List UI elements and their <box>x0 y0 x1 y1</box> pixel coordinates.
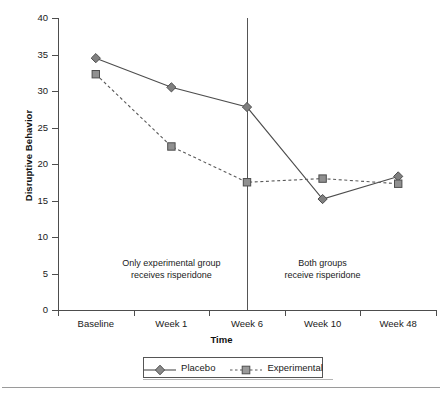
chart-figure: Disruptive Behavior 0510152025303540 Bas… <box>0 0 443 398</box>
legend-label-experimental: Experimental <box>267 362 322 373</box>
y-tick-label: 20 <box>37 158 52 169</box>
y-tick: 35 <box>52 55 58 56</box>
x-axis-line <box>58 310 436 311</box>
y-tick: 15 <box>52 201 58 202</box>
y-tick: 30 <box>52 91 58 92</box>
data-point-placebo-0 <box>91 54 100 63</box>
y-tick: 10 <box>52 237 58 238</box>
x-tick-label: Week 6 <box>231 318 263 329</box>
legend-entry-placebo: Placebo <box>143 362 215 374</box>
y-tick: 5 <box>52 274 58 275</box>
footer-divider-short <box>143 379 333 380</box>
y-tick-label: 5 <box>43 268 52 279</box>
x-tick <box>209 310 210 316</box>
x-axis-title: Time <box>0 334 443 345</box>
x-tick-label: Week 48 <box>380 318 417 329</box>
y-axis-line <box>58 18 59 310</box>
y-tick: 40 <box>52 18 58 19</box>
y-tick-label: 0 <box>43 304 52 315</box>
x-tick <box>360 310 361 316</box>
data-point-placebo-3 <box>318 194 327 203</box>
data-point-placebo-1 <box>167 83 176 92</box>
phase-divider-line <box>247 18 248 310</box>
y-axis-title: Disruptive Behavior <box>23 76 34 236</box>
y-tick-label: 35 <box>37 49 52 60</box>
placebo-diamond-icon <box>143 362 177 374</box>
right-phase-note: Both groups receive risperidone <box>285 257 361 281</box>
y-tick-label: 15 <box>37 195 52 206</box>
x-tick-label: Week 10 <box>304 318 341 329</box>
data-point-experimental-3 <box>319 175 326 182</box>
x-tick <box>58 310 59 316</box>
data-point-experimental-0 <box>92 71 99 78</box>
y-tick: 25 <box>52 128 58 129</box>
data-point-placebo-4 <box>394 172 403 181</box>
left-phase-note: Only experimental group receives risperi… <box>122 257 220 281</box>
experimental-square-icon <box>229 362 263 374</box>
y-tick-label: 40 <box>37 12 52 23</box>
y-tick-label: 25 <box>37 122 52 133</box>
x-tick <box>134 310 135 316</box>
x-tick <box>436 310 437 316</box>
y-tick-label: 10 <box>37 231 52 242</box>
chart-legend: Placebo Experimental <box>143 357 323 378</box>
y-tick-label: 30 <box>37 85 52 96</box>
x-tick-label: Week 1 <box>155 318 187 329</box>
x-tick-label: Baseline <box>78 318 114 329</box>
x-tick <box>285 310 286 316</box>
data-point-experimental-1 <box>168 143 175 150</box>
footer-divider-long <box>2 387 440 388</box>
legend-entry-experimental: Experimental <box>229 362 322 374</box>
y-tick: 20 <box>52 164 58 165</box>
data-point-experimental-4 <box>395 180 402 187</box>
legend-label-placebo: Placebo <box>181 362 215 373</box>
